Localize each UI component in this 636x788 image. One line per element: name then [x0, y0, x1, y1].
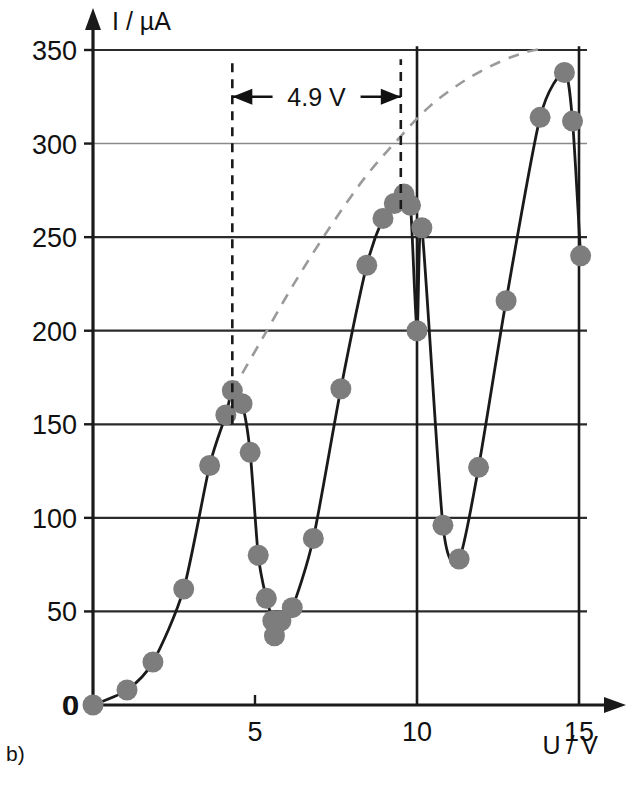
origin-tick-label: 0 [64, 691, 79, 721]
data-point [83, 695, 104, 716]
y-axis-label: I / µA [112, 7, 171, 35]
data-point [432, 515, 453, 536]
annotation-arrowhead-right [381, 89, 401, 105]
x-tick-label: 10 [402, 717, 432, 747]
data-point [173, 578, 194, 599]
y-tick-label: 150 [32, 410, 77, 440]
data-point [496, 290, 517, 311]
data-point-markers [83, 62, 592, 716]
data-point [330, 378, 351, 399]
data-point [282, 597, 303, 618]
data-point [570, 245, 591, 266]
x-axis-ticks [84, 50, 255, 705]
current-vs-voltage-chart: 4.9 V 050100150200250300350 510150 I / µ… [0, 0, 636, 788]
data-point [232, 393, 253, 414]
y-axis-tick-labels: 050100150200250300350 [32, 36, 77, 721]
data-point [256, 588, 277, 609]
data-point [356, 255, 377, 276]
data-point [303, 528, 324, 549]
data-point [400, 195, 421, 216]
data-point [248, 545, 269, 566]
franck-hertz-figure: 4.9 V 050100150200250300350 510150 I / µ… [0, 0, 636, 788]
data-point [468, 457, 489, 478]
data-point [142, 651, 163, 672]
x-axis-label: U / V [542, 731, 598, 759]
data-point [411, 217, 432, 238]
data-point [530, 107, 551, 128]
peak-spacing-annotation: 4.9 V [232, 59, 400, 424]
y-tick-label: 100 [32, 504, 77, 534]
y-tick-label: 300 [32, 130, 77, 160]
y-axis [85, 8, 101, 705]
y-tick-label: 350 [32, 36, 77, 66]
horizontal-gridlines [93, 50, 587, 611]
data-point [554, 62, 575, 83]
data-point [407, 320, 428, 341]
x-axis [93, 697, 626, 713]
y-tick-label: 250 [32, 223, 77, 253]
annotation-label: 4.9 V [287, 83, 346, 111]
vertical-gridlines [417, 46, 579, 705]
data-point [240, 442, 261, 463]
data-point [117, 680, 138, 701]
data-point [449, 549, 470, 570]
y-tick-label: 50 [47, 597, 77, 627]
x-axis-tick-labels: 510150 [64, 691, 594, 747]
annotation-arrowhead-left [232, 89, 252, 105]
x-tick-label: 5 [247, 717, 262, 747]
y-tick-label: 200 [32, 317, 77, 347]
data-point [199, 455, 220, 476]
panel-label: b) [6, 742, 25, 766]
data-point [562, 111, 583, 132]
